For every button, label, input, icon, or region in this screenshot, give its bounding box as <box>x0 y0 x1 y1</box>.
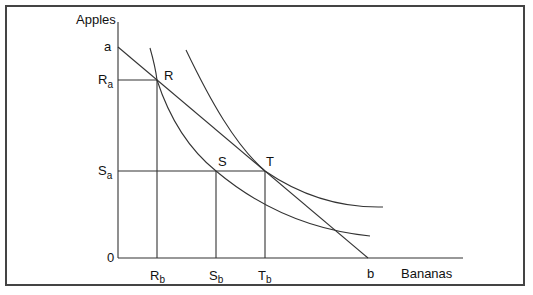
label-zero: 0 <box>107 250 114 265</box>
y-axis-label: Apples <box>76 12 116 27</box>
point-T-label: T <box>266 154 274 169</box>
x-axis-label: Bananas <box>401 266 453 281</box>
label-Sb: Sb <box>209 268 224 285</box>
label-Tb: Tb <box>258 268 272 285</box>
indifference-curve-1 <box>150 48 370 236</box>
label-b: b <box>367 266 374 281</box>
label-Rb: Rb <box>150 268 165 285</box>
label-Ra: Ra <box>98 72 113 90</box>
label-Sa: Sa <box>98 163 113 181</box>
budget-line <box>118 47 368 258</box>
point-S-label: S <box>218 154 227 169</box>
label-a: a <box>104 39 112 54</box>
point-R-label: R <box>164 68 173 83</box>
diagram-canvas: Apples a Ra Sa 0 R S T Rb Sb Tb b Banana… <box>0 0 533 295</box>
